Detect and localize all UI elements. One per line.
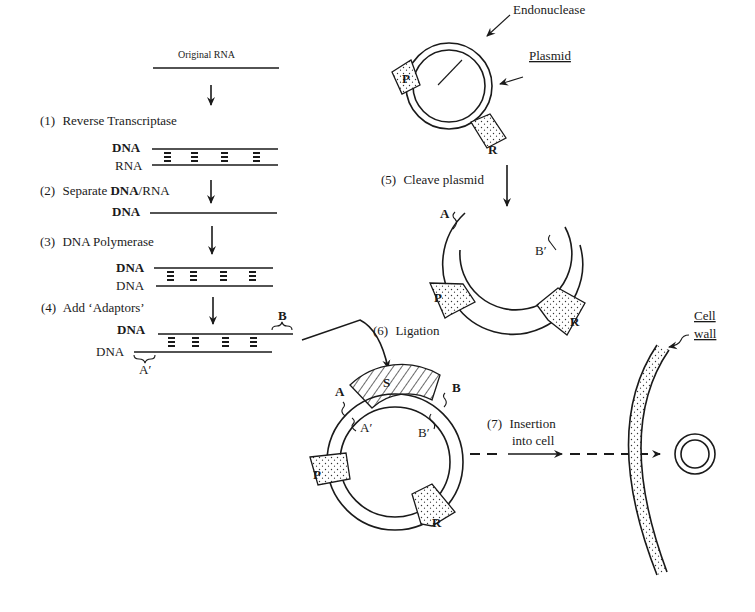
s4-dna-bottom-label: DNA — [96, 344, 125, 359]
recomb-a-label: A — [335, 384, 345, 399]
left-panel: Original RNA (1) Reverse Transcriptase D… — [40, 49, 388, 377]
recomb-a-brace-icon — [342, 402, 345, 416]
adaptor-a-prime-label: A′ — [139, 362, 151, 377]
cell-wall-fill — [629, 345, 670, 575]
step5-label: (5) Cleave plasmid — [381, 172, 484, 187]
s2-dna-label: DNA — [112, 204, 141, 219]
inserted-plasmid-inner — [681, 440, 709, 468]
recomb-b-prime-brace-icon — [430, 414, 435, 429]
recomb-b-brace-icon — [444, 393, 447, 407]
plasmid-pointer — [500, 77, 523, 84]
s3-base-pairs — [167, 272, 256, 280]
step5: (5) Cleave plasmid A B′ P R — [381, 165, 585, 335]
s3-dna-bottom-label: DNA — [116, 278, 145, 293]
cut-site-line — [438, 60, 462, 85]
step2-label: (2) Separate DNA/RNA — [40, 183, 170, 198]
end-b-prime-brace-icon — [549, 235, 557, 250]
end-b-prime-label: B′ — [535, 243, 547, 258]
marker-p-label: P — [402, 71, 410, 86]
s1-base-pairs — [164, 153, 260, 161]
cell-wall-label-line2: wall — [694, 326, 717, 341]
s1-rna-label: RNA — [115, 158, 143, 173]
end-a-label: A — [440, 206, 450, 221]
cleaved-marker-p-label: P — [434, 290, 442, 305]
recomb-b-label: B — [452, 380, 461, 395]
adaptor-b-label: B — [278, 308, 287, 323]
endonuclease-pointer — [487, 15, 510, 36]
step7-label-line1: (7) Insertion — [487, 416, 556, 431]
s4-dna-top-label: DNA — [117, 322, 146, 337]
recomb-marker-r-label: R — [432, 515, 442, 530]
plasmid-label: Plasmid — [529, 48, 571, 63]
step7-label-line2: into cell — [512, 433, 555, 448]
s3-dna-top-label: DNA — [116, 260, 145, 275]
step6-label: (6) Ligation — [373, 323, 440, 338]
recombinant-plasmid: S A A′ B B′ P R — [310, 364, 463, 530]
plasmid-inner-ring — [413, 50, 485, 122]
cell-wall-label-line1: Cell — [694, 308, 716, 323]
step4-label: (4) Add ‘Adaptors’ — [41, 300, 145, 315]
cell-wall: Cell wall — [629, 308, 717, 575]
recomb-b-prime-label: B′ — [418, 425, 430, 440]
insert-s-label: S — [383, 375, 390, 390]
s4-base-pairs — [168, 338, 257, 346]
recomb-a-prime-label: A′ — [360, 420, 372, 435]
cell-wall-pointer — [669, 335, 689, 347]
original-rna-label: Original RNA — [178, 49, 236, 60]
recomb-marker-p-label: P — [313, 467, 321, 482]
cdna-cloning-diagram: Original RNA (1) Reverse Transcriptase D… — [0, 0, 755, 612]
original-plasmid: P R Endonuclease Plasmid — [392, 2, 585, 157]
marker-r-label: R — [488, 142, 498, 157]
s1-dna-label: DNA — [112, 140, 141, 155]
step1-label: (1) Reverse Transcriptase — [40, 113, 177, 128]
adaptor-b-brace-icon — [272, 322, 292, 330]
step3-label: (3) DNA Polymerase — [40, 234, 154, 249]
endonuclease-label: Endonuclease — [513, 2, 585, 17]
cleaved-marker-r-label: R — [570, 314, 580, 329]
